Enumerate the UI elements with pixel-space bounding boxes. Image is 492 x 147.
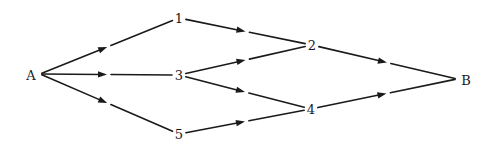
node-B: B bbox=[460, 74, 472, 87]
edge-line bbox=[319, 47, 382, 62]
edge-1-to-2 bbox=[186, 19, 305, 43]
arrowhead-icon bbox=[377, 57, 386, 63]
edges-layer bbox=[0, 0, 492, 147]
edge-A-to-3 bbox=[42, 71, 172, 77]
arrowhead-icon bbox=[98, 97, 108, 104]
edge-line bbox=[249, 93, 304, 107]
edge-A-to-5 bbox=[42, 75, 173, 131]
edge-line bbox=[42, 75, 102, 101]
edge-line bbox=[391, 63, 455, 78]
node-A: A bbox=[25, 69, 36, 82]
arrowhead-icon bbox=[377, 92, 386, 98]
edge-line bbox=[111, 21, 173, 46]
node-1: 1 bbox=[174, 12, 184, 25]
node-4: 4 bbox=[306, 103, 316, 116]
edge-line bbox=[249, 110, 304, 120]
edge-4-to-B bbox=[318, 79, 455, 107]
directed-graph-diagram: A13524B bbox=[0, 0, 492, 147]
node-2: 2 bbox=[307, 39, 317, 52]
arrowhead-icon bbox=[236, 59, 245, 65]
arrowhead-icon bbox=[98, 71, 107, 77]
edge-line bbox=[186, 77, 240, 91]
edge-line bbox=[390, 79, 455, 92]
edge-line bbox=[186, 61, 240, 73]
arrowhead-icon bbox=[236, 27, 245, 33]
edge-line bbox=[111, 105, 173, 132]
edge-line bbox=[186, 123, 240, 133]
arrowhead-icon bbox=[98, 47, 108, 53]
edge-line bbox=[42, 49, 102, 73]
node-5: 5 bbox=[174, 128, 184, 141]
edge-line bbox=[186, 19, 240, 30]
edge-3-to-2 bbox=[186, 47, 305, 74]
edge-5-to-4 bbox=[186, 110, 304, 132]
edge-2-to-B bbox=[319, 47, 455, 79]
edge-line bbox=[249, 32, 305, 43]
node-3: 3 bbox=[174, 69, 184, 82]
edge-A-to-1 bbox=[42, 21, 173, 74]
edge-line bbox=[249, 47, 305, 60]
arrowhead-icon bbox=[236, 120, 245, 126]
edge-3-to-4 bbox=[186, 77, 304, 108]
edge-line bbox=[318, 95, 381, 108]
arrowhead-icon bbox=[235, 87, 245, 93]
